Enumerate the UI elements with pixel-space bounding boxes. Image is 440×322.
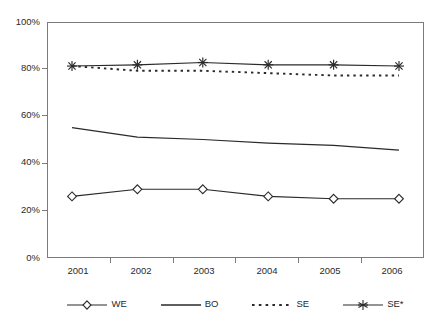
y-tick-mark-60 xyxy=(42,115,47,116)
x-tick-label-2002: 2002 xyxy=(130,265,151,276)
legend-swatch-we xyxy=(67,297,107,309)
legend-swatch-bo xyxy=(161,297,201,309)
legend-item-we[interactable]: WE xyxy=(67,294,126,312)
x-tick-label-2003: 2003 xyxy=(193,265,214,276)
plot-area xyxy=(47,22,424,258)
legend-item-bo[interactable]: BO xyxy=(161,294,219,312)
legend-label-we: WE xyxy=(111,298,126,309)
legend-label-se-star: SE* xyxy=(387,298,403,309)
x-tick-mark-3 xyxy=(235,258,236,263)
y-axis: 100% 80% 60% 40% 20% 0% xyxy=(0,0,40,322)
x-tick-mark-2 xyxy=(173,258,174,263)
y-tick-mark-20 xyxy=(42,210,47,211)
legend-item-se-star[interactable]: SE* xyxy=(343,294,403,312)
y-tick-mark-40 xyxy=(42,163,47,164)
y-tick-label-20: 20% xyxy=(0,205,40,215)
legend-label-se: SE xyxy=(296,298,309,309)
x-tick-label-2006: 2006 xyxy=(381,265,402,276)
legend-label-bo: BO xyxy=(205,298,219,309)
x-tick-label-2004: 2004 xyxy=(256,265,277,276)
y-tick-label-100: 100% xyxy=(0,17,40,27)
y-tick-label-60: 60% xyxy=(0,110,40,120)
y-tick-label-0: 0% xyxy=(0,253,40,263)
legend-swatch-se xyxy=(252,297,292,309)
y-tick-label-40: 40% xyxy=(0,157,40,167)
line-chart: 100% 80% 60% 40% 20% 0% 2001 2002 2003 2… xyxy=(0,0,440,322)
x-tick-mark-4 xyxy=(298,258,299,263)
x-tick-label-2005: 2005 xyxy=(319,265,340,276)
legend-item-se[interactable]: SE xyxy=(252,294,309,312)
x-tick-mark-5 xyxy=(361,258,362,263)
y-tick-mark-80 xyxy=(42,68,47,69)
legend-swatch-se-star xyxy=(343,297,383,309)
legend: WE BO SE xyxy=(47,292,424,314)
y-tick-label-80: 80% xyxy=(0,63,40,73)
x-tick-mark-1 xyxy=(110,258,111,263)
x-tick-label-2001: 2001 xyxy=(67,265,88,276)
